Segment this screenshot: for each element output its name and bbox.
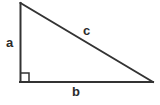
side-label-a: a <box>6 36 13 49</box>
triangle-side-c-hypotenuse <box>21 3 154 82</box>
side-label-c: c <box>83 24 90 37</box>
right-angle-marker-icon <box>21 73 30 82</box>
triangle-drawing <box>0 0 160 105</box>
right-triangle-diagram: a b c <box>0 0 160 105</box>
side-label-b: b <box>72 85 80 98</box>
